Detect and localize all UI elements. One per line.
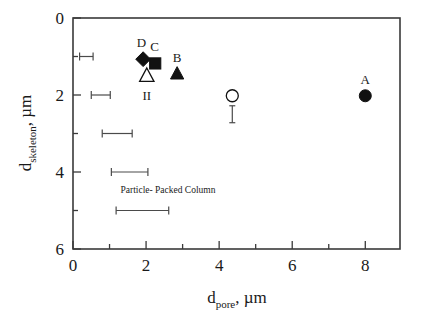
data-marker-II <box>140 68 154 81</box>
vertical-error-bars-group <box>229 106 235 123</box>
data-point-label-C: C <box>150 39 159 54</box>
y-axis-title-units: , µm <box>16 95 35 127</box>
y-axis-tick-label: 0 <box>56 9 65 28</box>
x-axis-tick-label: 6 <box>288 256 297 275</box>
data-marker-C <box>150 58 161 69</box>
horizontal-error-bar <box>116 207 169 215</box>
scatter-plot-figure: 02468 0246 ABCDII Particle- Packed Colum… <box>0 0 421 316</box>
data-point-labels-group: ABCDII <box>137 35 371 103</box>
x-axis-tick-label: 4 <box>215 256 224 275</box>
x-axis-ticks-group <box>73 241 365 249</box>
data-point-label-D: D <box>137 35 146 50</box>
data-marker-B <box>171 67 184 79</box>
x-axis-tick-label: 0 <box>69 256 78 275</box>
data-markers-group <box>136 52 372 102</box>
data-marker-A <box>359 90 371 102</box>
y-axis-title: dskeleton, µm <box>16 95 38 172</box>
x-axis-tick-label: 2 <box>142 256 151 275</box>
x-axis-tick-labels-group: 02468 <box>69 256 370 275</box>
y-axis-title-subscript: skeleton <box>26 126 38 163</box>
plot-canvas: 02468 0246 ABCDII Particle- Packed Colum… <box>0 0 421 316</box>
y-axis-tick-labels-group: 0246 <box>56 9 65 259</box>
y-axis-tick-label: 4 <box>56 163 65 182</box>
horizontal-error-bar <box>102 130 132 138</box>
x-axis-title: dpore, µm <box>207 288 267 310</box>
horizontal-error-bar <box>91 91 110 99</box>
data-marker-D <box>136 52 151 67</box>
y-axis-tick-label: 6 <box>56 240 65 259</box>
annotation-group: Particle- Packed Column <box>121 185 216 195</box>
data-point-label-B: B <box>173 50 182 65</box>
horizontal-error-bar <box>80 53 94 61</box>
x-axis-title-units: , µm <box>235 288 267 307</box>
x-axis-title-subscript: pore <box>216 298 236 310</box>
x-axis-tick-label: 8 <box>361 256 370 275</box>
particle-packed-column-annotation: Particle- Packed Column <box>121 185 216 195</box>
y-axis-tick-label: 2 <box>56 86 65 105</box>
data-marker-unlabeled <box>226 90 238 102</box>
horizontal-error-bar <box>111 168 148 176</box>
vertical-error-bar <box>229 106 235 123</box>
data-point-label-A: A <box>361 72 371 87</box>
data-point-label-II: II <box>142 88 151 103</box>
axis-titles-group: dpore, µm dskeleton, µm <box>16 95 267 310</box>
